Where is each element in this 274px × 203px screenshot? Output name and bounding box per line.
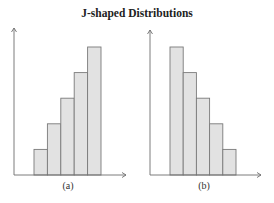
histogram-bar <box>183 73 196 175</box>
histogram-bar <box>210 124 223 175</box>
histogram-pair <box>0 0 274 203</box>
histogram-bar <box>34 149 47 175</box>
histogram-bar <box>223 149 236 175</box>
chart-b-label: (b) <box>184 180 224 191</box>
chart-a-label: (a) <box>48 180 88 191</box>
histogram-bar <box>47 124 60 175</box>
histogram-bar <box>88 47 101 175</box>
histogram-bar <box>61 98 74 175</box>
histogram-bar <box>196 98 209 175</box>
histogram-bar <box>170 47 183 175</box>
histogram-bar <box>74 73 87 175</box>
